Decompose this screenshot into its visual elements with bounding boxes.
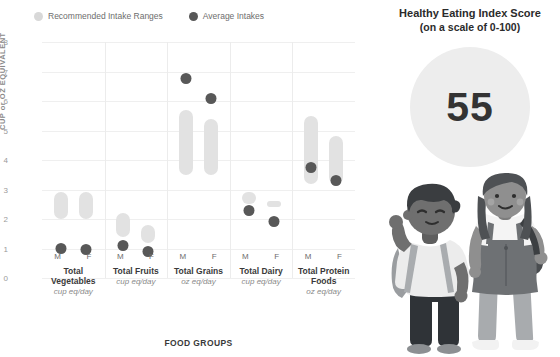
sex-tick-labels: MF xyxy=(167,252,230,261)
x-axis-group: MFTotal Grainsoz eq/day xyxy=(167,252,230,286)
y-axis-tick: 6 xyxy=(0,97,8,106)
y-axis-tick: 3 xyxy=(0,185,8,194)
recommended-range-bar xyxy=(179,110,193,175)
food-group-label: Total Grains xyxy=(167,266,230,276)
sex-tick-label: F xyxy=(324,252,355,261)
food-group-unit: cup eq/day xyxy=(105,277,168,286)
circle-icon xyxy=(34,12,43,21)
circle-icon xyxy=(189,12,198,21)
food-group-label: Total Protein Foods xyxy=(292,266,355,286)
y-axis-label: CUP or OZ EQUIVALENT xyxy=(0,32,7,130)
two-children-with-backpacks-icon xyxy=(380,170,560,357)
x-axis-group: MFTotal Fruitscup eq/day xyxy=(105,252,168,286)
recommended-range-bar xyxy=(116,213,130,237)
average-intake-dot xyxy=(206,93,217,104)
recommended-range-bar xyxy=(304,116,318,184)
food-group-unit: cup eq/day xyxy=(42,287,105,296)
chart-legend: Recommended Intake Ranges Average Intake… xyxy=(34,11,264,21)
y-axis-tick: 5 xyxy=(0,126,8,135)
panel-title: Healthy Eating Index Score (on a scale o… xyxy=(380,6,560,34)
recommended-range-bar xyxy=(141,225,155,243)
x-axis-group: MFTotal Vegetablescup eq/day xyxy=(42,252,105,296)
average-intake-dot xyxy=(306,162,317,173)
grid-line xyxy=(42,72,355,73)
food-group-unit: cup eq/day xyxy=(230,277,293,286)
x-axis-groups: MFTotal Vegetablescup eq/dayMFTotal Frui… xyxy=(42,252,355,322)
sex-tick-label: M xyxy=(230,252,261,261)
legend-label-recommended: Recommended Intake Ranges xyxy=(48,11,163,21)
legend-item-recommended: Recommended Intake Ranges xyxy=(34,11,163,21)
sex-tick-label: F xyxy=(261,252,292,261)
legend-item-average: Average Intakes xyxy=(189,11,264,21)
x-axis-group: MFTotal Dairycup eq/day xyxy=(230,252,293,286)
recommended-range-bar xyxy=(54,192,68,219)
y-axis-tick: 2 xyxy=(0,215,8,224)
food-group-label: Total Vegetables xyxy=(42,266,105,286)
recommended-range-bar xyxy=(204,119,218,175)
sex-tick-label: F xyxy=(73,252,104,261)
sex-tick-labels: MF xyxy=(292,252,355,261)
average-intake-dot xyxy=(331,175,342,186)
group-separator xyxy=(292,42,293,278)
grid-line xyxy=(42,42,355,43)
group-separator xyxy=(167,42,168,278)
y-axis-tick: 4 xyxy=(0,156,8,165)
x-axis-group: MFTotal Protein Foodsoz eq/day xyxy=(292,252,355,296)
y-axis-tick: 8 xyxy=(0,38,8,47)
grid-line xyxy=(42,219,355,220)
group-separator xyxy=(230,42,231,278)
score-badge: 55 xyxy=(410,47,530,167)
score-value: 55 xyxy=(446,84,494,131)
grid-line xyxy=(42,190,355,191)
intake-chart: CUP or OZ EQUIVALENT 012345678 xyxy=(0,30,375,290)
grid-line xyxy=(42,101,355,102)
sex-tick-labels: MF xyxy=(105,252,168,261)
y-axis-tick: 7 xyxy=(0,67,8,76)
food-group-unit: oz eq/day xyxy=(167,277,230,286)
recommended-range-bar xyxy=(267,201,281,207)
sex-tick-label: M xyxy=(167,252,198,261)
recommended-range-bar xyxy=(79,192,93,219)
food-group-label: Total Dairy xyxy=(230,266,293,276)
sex-tick-label: F xyxy=(136,252,167,261)
recommended-range-bar xyxy=(242,192,256,204)
hei-score-panel: Healthy Eating Index Score (on a scale o… xyxy=(380,0,560,357)
sex-tick-label: M xyxy=(42,252,73,261)
group-separator xyxy=(105,42,106,278)
children-illustration xyxy=(380,170,560,357)
y-axis-tick: 1 xyxy=(0,244,8,253)
panel-title-line2: (on a scale of 0-100) xyxy=(380,20,560,34)
legend-label-average: Average Intakes xyxy=(203,11,264,21)
average-intake-dot xyxy=(268,216,279,227)
x-axis-title: FOOD GROUPS xyxy=(42,338,355,348)
sex-tick-labels: MF xyxy=(42,252,105,261)
sex-tick-label: M xyxy=(105,252,136,261)
y-axis-tick: 0 xyxy=(0,274,8,283)
panel-title-line1: Healthy Eating Index Score xyxy=(380,6,560,20)
sex-tick-labels: MF xyxy=(230,252,293,261)
food-group-label: Total Fruits xyxy=(105,266,168,276)
food-group-unit: oz eq/day xyxy=(292,287,355,296)
infographic-root: Recommended Intake Ranges Average Intake… xyxy=(0,0,560,357)
average-intake-dot xyxy=(180,73,191,84)
sex-tick-label: M xyxy=(292,252,323,261)
average-intake-dot xyxy=(243,205,254,216)
plot-area: 012345678 xyxy=(42,42,355,278)
average-intake-dot xyxy=(118,240,129,251)
sex-tick-label: F xyxy=(198,252,229,261)
